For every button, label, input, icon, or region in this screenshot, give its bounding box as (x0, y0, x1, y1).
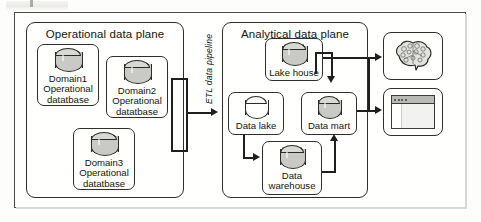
database-cylinder-icon (91, 132, 117, 156)
database-cylinder-icon (282, 42, 306, 66)
node-data-lake-label: Data lake (235, 121, 278, 131)
database-cylinder-icon (280, 145, 304, 169)
database-cylinder-icon (55, 48, 81, 72)
node-data-warehouse[interactable]: Data warehouse (262, 141, 322, 195)
lake-to-warehouse-arrowhead (253, 153, 260, 161)
etl-pipeline-spine (186, 78, 188, 152)
consumer-machine-learning[interactable] (383, 32, 443, 80)
scan-artifact-mark (30, 0, 33, 7)
node-data-mart-label: Data mart (307, 121, 351, 131)
etl-bracket-top (171, 78, 187, 80)
node-lake-house-label: Lake house (268, 68, 320, 78)
database-cylinder-icon (318, 96, 340, 119)
node-domain1[interactable]: Domain1 Operational datatbase (37, 44, 99, 106)
lakehouse-to-mart-arrowhead (327, 76, 335, 83)
warehouse-to-mart-h (322, 171, 336, 173)
consumer-bus-vertical (368, 57, 370, 111)
diagram-canvas: Operational data plane Domain1 Operation… (0, 0, 481, 222)
mart-to-bi-arrowhead (375, 106, 382, 114)
node-domain2[interactable]: Domain2 Operational datatbase (106, 56, 168, 118)
node-domain1-label: Domain1 Operational datatbase (42, 74, 94, 105)
warehouse-to-mart-v2 (334, 140, 336, 160)
etl-bracket-bottom (171, 150, 187, 152)
etl-pipeline-arrowhead (211, 108, 218, 116)
node-data-warehouse-label: Data warehouse (268, 171, 317, 192)
database-cylinder-icon (245, 96, 267, 119)
database-cylinder-icon (124, 60, 150, 84)
etl-bracket-vertical (171, 78, 173, 152)
lake-to-warehouse-v (243, 134, 245, 158)
lakehouse-to-mart-v2 (331, 52, 333, 78)
node-data-mart[interactable]: Data mart (301, 92, 357, 135)
etl-pipeline-label: ETL data pipeline (204, 34, 214, 104)
consumer-bi-dashboard[interactable] (383, 88, 443, 136)
node-data-lake[interactable]: Data lake (228, 92, 284, 135)
node-domain2-label: Domain2 Operational datatbase (111, 86, 163, 117)
lakehouse-to-ml-line (323, 57, 379, 59)
lakehouse-to-mart-v1 (315, 52, 317, 74)
node-domain3-label: Domain3 Operational datatbase (78, 158, 130, 189)
scan-artifact (6, 1, 68, 10)
etl-pipeline-arrow-line (186, 112, 212, 114)
lakehouse-to-ml-arrowhead (375, 53, 382, 61)
dashboard-window-icon (391, 95, 435, 129)
brain-icon (391, 39, 435, 73)
warehouse-to-mart-arrowhead (330, 134, 338, 141)
node-domain3[interactable]: Domain3 Operational datatbase (73, 128, 135, 190)
operational-data-plane-title: Operational data plane (27, 28, 183, 40)
